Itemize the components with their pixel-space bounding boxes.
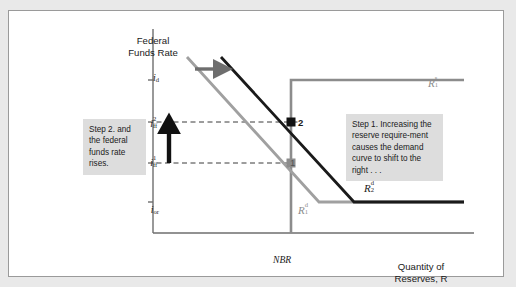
figure-canvas: Federal Funds Rate Quantity of Reserves,… (0, 0, 516, 287)
y-tick-ior-sub: or (154, 208, 160, 215)
curve-label-supply-base: R (428, 77, 435, 89)
y-axis-title: Federal Funds Rate (117, 35, 189, 59)
y-tick-label-ior: ior (131, 204, 159, 215)
curve-label-demand2-base: R (364, 182, 371, 194)
curve-label-demand-1: Rd1 (298, 203, 312, 216)
y-tick-label-id: id (137, 72, 159, 83)
y-tick-iff2-script: 2ff (153, 117, 159, 127)
x-axis-title: Quantity of Reserves, R (371, 261, 471, 285)
point-label-2: 2 (298, 117, 303, 128)
curve-label-demand1-sup: d (305, 201, 308, 208)
figure-frame: Federal Funds Rate Quantity of Reserves,… (8, 10, 504, 277)
curve-label-supply-sub: 1 (435, 81, 438, 88)
point-label-1: 1 (290, 157, 295, 168)
step2-callout: Step 2. and the federal funds rate rises… (83, 119, 146, 175)
y-tick-iff2-sup: 2 (153, 115, 156, 122)
y-tick-iff1-sub: ff (153, 161, 157, 168)
curve-label-supply: Rs1 (428, 76, 442, 89)
y-tick-iff1-script: 1ff (153, 156, 159, 166)
curve-label-supply-sup: s (435, 74, 438, 81)
x-tick-label-nbr: NBR (273, 254, 291, 265)
y-tick-id-sub: d (156, 76, 159, 83)
step1-callout: Step 1. Increasing the reserve require-m… (346, 114, 443, 181)
curve-label-demand1-script: d1 (305, 203, 312, 214)
curve-label-demand1-sub: 1 (305, 208, 308, 215)
curve-label-demand2-script: d2 (371, 181, 378, 192)
y-tick-iff1-sup: 1 (153, 154, 156, 161)
equilibrium-marker-2 (287, 118, 296, 127)
curve-label-supply-script: s1 (435, 76, 442, 87)
curve-label-demand2-sub: 2 (371, 186, 374, 193)
y-tick-iff2-sub: ff (153, 122, 157, 129)
curve-label-demand1-base: R (298, 204, 305, 216)
curve-label-demand-2: Rd2 (364, 181, 378, 194)
